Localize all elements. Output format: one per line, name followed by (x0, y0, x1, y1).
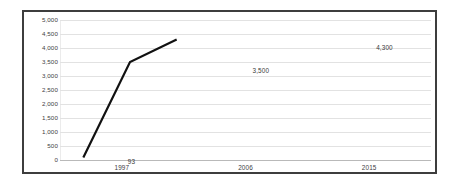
y-axis-tick-label: 2,500 (26, 87, 58, 93)
y-axis-tick-label: 0 (26, 157, 58, 163)
y-axis-tick-label: 3,500 (26, 59, 58, 65)
data-point-label: 4,300 (376, 45, 393, 51)
y-axis-tick-label: 500 (26, 143, 58, 149)
y-axis-tick-label: 1,500 (26, 115, 58, 121)
y-axis-tick-label: 1,000 (26, 129, 58, 135)
series-polyline (83, 40, 176, 158)
y-axis-tick-label: 3,000 (26, 73, 58, 79)
x-axis-tick-label: 2015 (362, 165, 377, 171)
data-series-line (60, 20, 200, 160)
x-axis-baseline (60, 160, 431, 161)
data-point-label: 93 (128, 159, 135, 165)
plot-area: 5,0004,5004,0003,5003,0002,5002,0001,500… (24, 12, 435, 172)
x-axis-tick-label: 2006 (238, 165, 253, 171)
y-axis: 5,0004,5004,0003,5003,0002,5002,0001,500… (26, 20, 58, 160)
chart-screenshot: 5,0004,5004,0003,5003,0002,5002,0001,500… (0, 0, 459, 184)
y-axis-tick-label: 4,500 (26, 31, 58, 37)
x-axis-tick-label: 1997 (114, 165, 129, 171)
chart-frame: 5,0004,5004,0003,5003,0002,5002,0001,500… (22, 10, 437, 174)
y-axis-tick-label: 4,000 (26, 45, 58, 51)
data-point-label: 3,500 (253, 68, 270, 74)
x-axis: 199720062015 (60, 162, 431, 176)
y-axis-tick-label: 5,000 (26, 17, 58, 23)
y-axis-tick-label: 2,000 (26, 101, 58, 107)
